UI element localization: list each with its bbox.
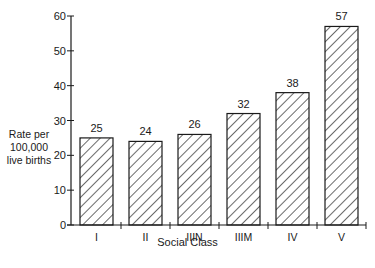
data-label: 24 <box>139 125 151 137</box>
bar-iiim <box>227 114 260 225</box>
data-label: 26 <box>188 118 200 130</box>
y-axis-label-line-3: live births <box>0 154 58 167</box>
data-label: 32 <box>237 98 249 110</box>
y-axis-label-line-1: Rate per <box>0 128 58 141</box>
x-axis-title: Social Class <box>0 236 375 248</box>
y-axis-label-line-2: 100,000 <box>0 141 58 154</box>
bar-v <box>325 26 358 225</box>
data-label: 57 <box>335 10 347 22</box>
bar-ii <box>129 141 162 225</box>
y-axis-label: Rate per 100,000 live births <box>0 128 58 167</box>
y-tick-label: 50 <box>54 45 66 57</box>
y-tick-label: 30 <box>54 115 66 127</box>
y-tick-label: 40 <box>54 80 66 92</box>
bar-i <box>80 138 113 225</box>
y-tick-label: 60 <box>54 10 66 22</box>
y-tick-label: 10 <box>54 184 66 196</box>
data-label: 38 <box>286 77 298 89</box>
y-tick-label: 0 <box>60 219 66 231</box>
data-label: 25 <box>90 122 102 134</box>
bar-iiin <box>178 134 211 225</box>
bars: 25I24II26IIIN32IIIM38IV57V <box>80 10 358 243</box>
bar-iv <box>276 93 309 225</box>
